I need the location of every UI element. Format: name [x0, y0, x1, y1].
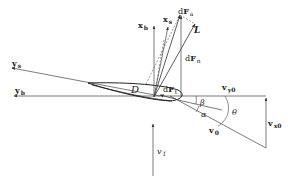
- dFn-label: dFn: [185, 53, 201, 64]
- L-label: L: [193, 25, 200, 35]
- dashed-line-1: [146, 15, 180, 84]
- vy0-label: vy0: [221, 82, 235, 94]
- dFt-label: dFt: [163, 84, 178, 95]
- v0-label: v0: [208, 125, 219, 136]
- theta-arc: [218, 96, 229, 126]
- v0-vector: [170, 96, 266, 148]
- D-label: D: [130, 84, 139, 95]
- beta-label: β: [199, 98, 205, 107]
- D-vector: [160, 95, 176, 99]
- diagram-svg: xb xs dFa L dFn dFt D ys yb vy0 vx0 v0 v…: [0, 0, 288, 191]
- xs-label: xs: [163, 14, 173, 25]
- yb-label: yb: [14, 85, 25, 96]
- theta-label: θ: [232, 108, 237, 117]
- dFa-label: dFa: [178, 6, 194, 17]
- vx0-label: vx0: [267, 118, 281, 129]
- v1-label: v1: [157, 147, 166, 157]
- airfoil-force-diagram: xb xs dFa L dFn dFt D ys yb vy0 vx0 v0 v…: [0, 0, 288, 191]
- alpha-label: α: [201, 110, 207, 119]
- xb-label: xb: [138, 20, 148, 31]
- ys-label: ys: [11, 58, 22, 69]
